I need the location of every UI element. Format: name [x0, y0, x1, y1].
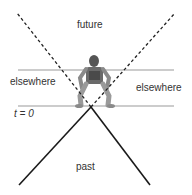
past-cone-right-edge: [91, 107, 150, 185]
seated-person-figure: [75, 55, 115, 108]
elsewhere-left-label: elsewhere: [10, 77, 56, 87]
time-zero-label: t = 0: [14, 109, 34, 119]
past-label: past: [76, 162, 95, 172]
future-label: future: [77, 20, 103, 30]
elsewhere-right-label: elsewhere: [136, 83, 182, 93]
